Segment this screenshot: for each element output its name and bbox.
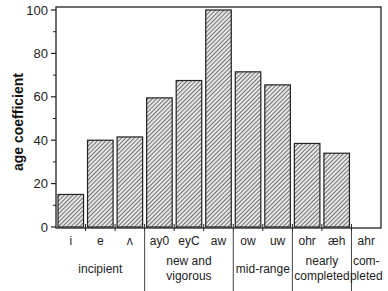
bar-æh bbox=[324, 153, 350, 227]
bar-e bbox=[88, 140, 114, 227]
y-tick-label: 80 bbox=[34, 46, 48, 61]
x-tick-label: uw bbox=[270, 234, 286, 248]
y-tick-label: 40 bbox=[34, 133, 48, 148]
bar-aw bbox=[206, 10, 232, 227]
group-label: vigorous bbox=[166, 269, 211, 283]
x-tick-label: aw bbox=[211, 234, 227, 248]
y-tick-label: 60 bbox=[34, 89, 48, 104]
y-tick-label: 100 bbox=[26, 3, 48, 18]
group-label: nearly bbox=[306, 254, 339, 268]
x-tick-label: ʌ bbox=[127, 234, 133, 248]
x-tick-label: i bbox=[69, 234, 72, 248]
group-label: completed bbox=[294, 269, 349, 283]
group-label: new and bbox=[166, 254, 211, 268]
group-label: pleted bbox=[350, 269, 383, 283]
y-tick-label: 20 bbox=[34, 176, 48, 191]
bar-chart: 020406080100ieʌay0eyCawowuwohræhahrincip… bbox=[0, 0, 388, 291]
group-label: incipient bbox=[78, 262, 123, 276]
bar-i bbox=[58, 194, 84, 227]
bar-ow bbox=[235, 72, 261, 227]
x-tick-label: eyC bbox=[178, 234, 200, 248]
x-tick-label: ahr bbox=[358, 234, 375, 248]
bar-ohr bbox=[294, 143, 320, 227]
group-label: mid-range bbox=[236, 262, 290, 276]
x-tick-label: æh bbox=[328, 234, 345, 248]
bar-ʌ bbox=[117, 137, 143, 227]
group-label: com- bbox=[353, 254, 380, 268]
x-tick-label: e bbox=[97, 234, 104, 248]
x-tick-label: ohr bbox=[298, 234, 315, 248]
x-tick-label: ow bbox=[240, 234, 256, 248]
bar-eyC bbox=[176, 81, 202, 227]
x-tick-label: ay0 bbox=[150, 234, 170, 248]
bar-uw bbox=[265, 85, 291, 227]
y-tick-label: 0 bbox=[41, 220, 48, 235]
bar-ay0 bbox=[147, 98, 173, 227]
